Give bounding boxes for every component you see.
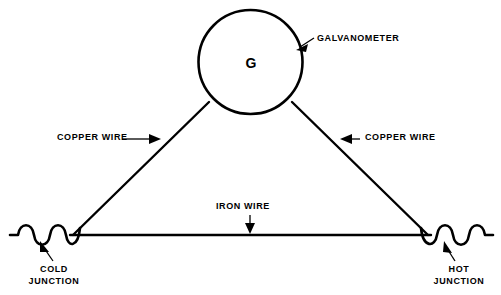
iron-wire-label: IRON WIRE [216,200,270,212]
hot-junction-label-line-2: JUNCTION [424,275,494,287]
cold-junction-label: COLD JUNCTION [16,263,92,287]
diagram-canvas [0,0,501,295]
copper-wire-left-arrowhead-icon [149,134,161,144]
iron-wire-arrowhead-icon [245,223,255,234]
galvanometer-label: GALVANOMETER [317,32,399,44]
cold-junction-label-line-1: COLD [16,263,92,275]
hot-junction-arrowhead-icon [443,241,452,253]
cold-junction-label-line-2: JUNCTION [16,275,92,287]
copper-wire-right-label: COPPER WIRE [365,131,436,143]
thermocouple-diagram: G GALVANOMETER COPPER WIRE COPPER WIRE I… [0,0,501,295]
copper-wire-right-line [292,102,428,235]
galvanometer-symbol: G [230,55,272,71]
copper-wire-left-label: COPPER WIRE [57,131,128,143]
copper-wire-right-arrowhead-icon [340,134,352,144]
hot-junction-label: HOT JUNCTION [424,263,494,287]
copper-wire-left-line [73,102,209,235]
hot-junction-label-line-1: HOT [424,263,494,275]
